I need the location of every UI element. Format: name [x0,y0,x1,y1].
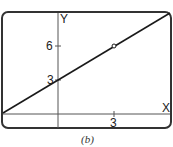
data-line [3,13,170,113]
hole-marker [112,44,116,48]
chart-svg: Y X 6 3 3 (b) [0,0,173,147]
x-axis-label: X [162,101,170,115]
x-tick-label-3: 3 [110,116,117,130]
figure-caption: (b) [81,133,94,146]
y-axis-label: Y [60,12,68,26]
y-tick-label-6: 6 [46,39,53,53]
plot-frame [2,12,171,128]
y-tick-label-3: 3 [47,73,54,87]
